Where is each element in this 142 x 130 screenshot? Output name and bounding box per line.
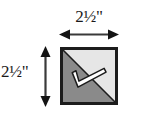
width-dimension-arrow [59, 30, 119, 40]
diagram-canvas: 2½" 2½" [0, 0, 142, 130]
height-dimension-arrow [41, 46, 51, 107]
width-arrow-head-left [59, 30, 70, 40]
width-label: 2½" [60, 8, 118, 25]
width-arrow-head-right [108, 30, 119, 40]
height-arrow-head-top [41, 46, 51, 57]
width-label-text: 2½" [75, 7, 103, 26]
height-label: 2½" [1, 63, 41, 80]
height-arrow-head-bottom [41, 96, 51, 107]
height-label-text: 2½" [1, 62, 29, 81]
